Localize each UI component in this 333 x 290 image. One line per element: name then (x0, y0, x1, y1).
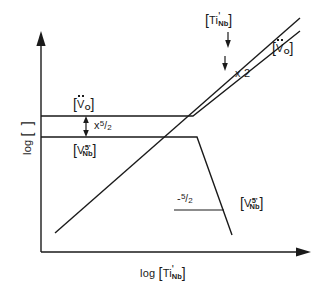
x-axis (41, 247, 311, 256)
x-axis-title-species: Ti (163, 267, 172, 279)
label-v-nb-slope-sub: Nb (250, 202, 260, 211)
annotation-factor-2-text: x 2 (235, 67, 250, 79)
figure-root: log [] log [TiNb] [TiNb] [VO] [VO] [V5'N… (0, 0, 333, 290)
annotation-factor-2: x 2 (235, 68, 250, 79)
y-axis (36, 31, 45, 252)
annotation-slope-denominator: 2 (188, 196, 192, 205)
x-axis-title-bracket-close: ] (182, 265, 186, 281)
label-v-o-plateau-species: V (77, 98, 85, 110)
label-v-o-top: [VO] (272, 41, 294, 56)
label-ti-nb-species: Ti (209, 14, 218, 26)
label-v-o-plateau: [VO] (73, 97, 95, 112)
label-v-o-top-bracket-close: ] (289, 40, 293, 56)
annotation-factor-5-2: x5/2 (94, 120, 112, 132)
label-v-nb-plateau-bracket-close: ] (93, 142, 97, 158)
y-axis-title-bracket-open: [ (19, 132, 35, 136)
annotation-factor-5-2-denominator: 2 (107, 123, 111, 132)
y-axis-title-log: log (21, 140, 33, 155)
label-v-nb-plateau-sub: Nb (83, 149, 93, 158)
label-v-nb-plateau: [V5'Nb] (73, 143, 97, 158)
x-axis-title-log: log (140, 267, 155, 279)
y-axis-title: log [] (20, 121, 34, 155)
label-v-o-plateau-bracket-close: ] (90, 96, 94, 112)
annotation-slope-minus-5-2: -5/2 (177, 193, 193, 205)
label-ti-nb-bracket-close: ] (228, 12, 232, 28)
y-axis-title-bracket-close: ] (19, 121, 35, 125)
label-v-o-top-species: V (276, 42, 284, 54)
label-v-nb-slope: [V5'Nb] (240, 196, 264, 211)
label-v-nb-slope-bracket-close: ] (260, 195, 264, 211)
x-axis-arrow-icon (296, 247, 311, 256)
separation-arrow-5-2 (83, 116, 89, 137)
x-axis-title: log [TiNb] (140, 266, 186, 281)
label-ti-nb-top: [TiNb] (205, 13, 232, 28)
separation-arrow-2 (222, 32, 231, 71)
y-axis-arrow-icon (36, 31, 45, 46)
